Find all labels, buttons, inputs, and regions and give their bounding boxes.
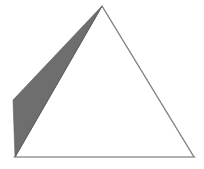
figure-canvas: Outline triangle rendered in thin gray s… bbox=[0, 0, 204, 169]
triangle-figure-svg bbox=[0, 0, 204, 169]
